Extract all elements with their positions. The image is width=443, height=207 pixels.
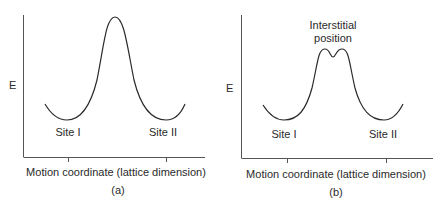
panel-b-annotation-line2: position xyxy=(314,33,352,44)
panel-b-site-2-label: Site II xyxy=(369,129,397,140)
panel-b-site-1-label: Site I xyxy=(271,129,296,140)
panel-a-caption: (a) xyxy=(111,185,124,196)
panel-b-x-label: Motion coordinate (lattice dimension) xyxy=(246,169,426,180)
panel-a-axes xyxy=(24,15,206,162)
panel-b-y-label: E xyxy=(226,83,233,94)
panel-a-y-label: E xyxy=(9,80,16,91)
panel-a-x-label: Motion coordinate (lattice dimension) xyxy=(26,167,206,178)
panel-a-energy-curve xyxy=(45,17,185,120)
panel-a-site-1-label: Site I xyxy=(55,127,80,138)
panel-b-energy-curve xyxy=(263,49,403,120)
panel-b-caption: (b) xyxy=(329,187,342,198)
panel-b-annotation-line1: Interstitial xyxy=(309,20,356,31)
panel-a-site-2-label: Site II xyxy=(149,127,177,138)
